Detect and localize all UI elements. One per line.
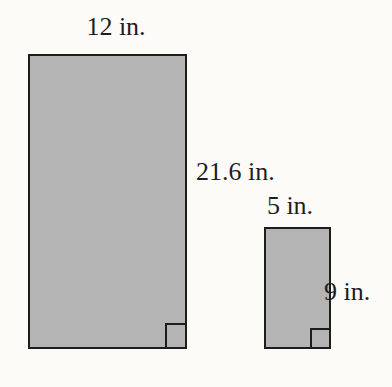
small-rectangle <box>264 227 331 349</box>
small-rectangle-height-label: 9 in. <box>324 278 370 306</box>
similar-rectangles-diagram: 12 in. 21.6 in. 5 in. 9 in. <box>0 0 392 387</box>
small-rectangle-width-label: 5 in. <box>240 192 340 220</box>
large-rectangle-height-label: 21.6 in. <box>196 158 275 186</box>
right-angle-icon <box>310 328 329 347</box>
large-rectangle <box>28 54 187 349</box>
right-angle-icon <box>165 323 185 347</box>
large-rectangle-width-label: 12 in. <box>66 13 166 41</box>
